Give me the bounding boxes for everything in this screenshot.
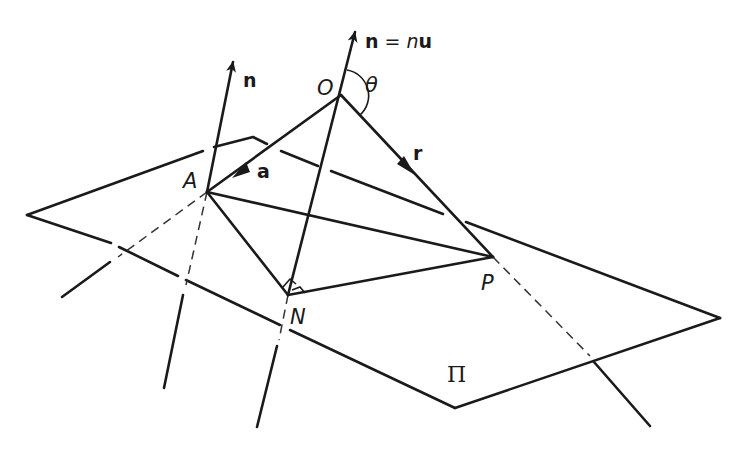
label-vector-a: a: [257, 160, 270, 182]
line-NP: [288, 257, 493, 295]
plane-interior-lines: [207, 192, 493, 295]
label-vector-r: r: [413, 142, 423, 164]
vector-r-line: [341, 95, 493, 257]
label-P: P: [481, 271, 494, 295]
label-A: A: [181, 169, 197, 193]
label-n-at-A: n: [243, 69, 257, 91]
label-N: N: [290, 305, 306, 329]
label-plane-pi: Π: [447, 362, 466, 387]
lines-below-plane: [62, 192, 650, 427]
plane-geometry-diagram: n = nu n O θ A a r N P Π: [0, 0, 740, 451]
label-theta: θ: [365, 73, 378, 97]
plane-pi-outline: [27, 137, 720, 408]
normal-vector-A: [207, 62, 233, 192]
label-O: O: [317, 76, 334, 100]
normal-vector-O: [288, 32, 355, 295]
label-n-equals-nu: n = nu: [365, 30, 432, 52]
